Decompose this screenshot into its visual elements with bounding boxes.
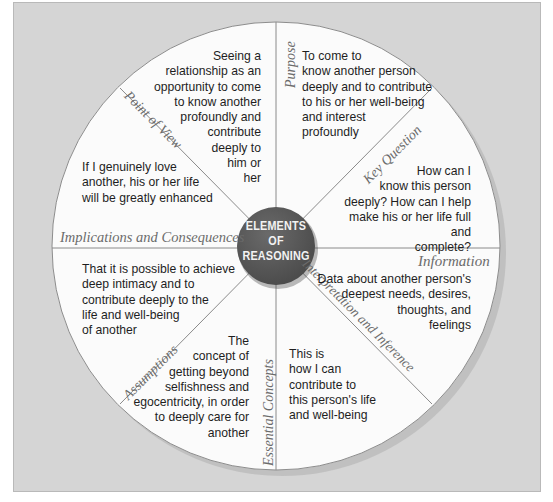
text-essential-concepts: The concept of getting beyond selfishnes… (120, 334, 249, 441)
text-assumptions: That it is possible to achieve deep inti… (82, 262, 262, 338)
text-information: Data about another person's deepest need… (300, 272, 471, 333)
label-purpose: Purpose (283, 41, 299, 88)
hub-label: ELEMENTS OF REASONING (242, 219, 310, 264)
hub-line-1: ELEMENTS (242, 219, 310, 234)
text-point-of-view: Seeing a relationship as an opportunity … (145, 49, 261, 187)
text-key-question: How can I know this person deeply? How c… (330, 164, 471, 256)
hub-line-2: OF (242, 234, 310, 249)
label-essential-concepts: Essential Concepts (261, 359, 277, 466)
text-interpretation: This is how I can contribute to this per… (289, 347, 429, 423)
text-purpose: To come to know another person deeply an… (302, 49, 462, 141)
label-implications: Implications and Consequences (60, 229, 244, 246)
